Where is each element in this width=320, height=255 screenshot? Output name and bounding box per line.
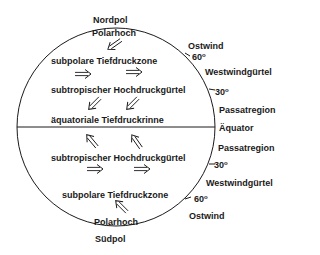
- westerlies-north-label: Westwindgürtel: [205, 67, 272, 77]
- lat-30-north-label: 30o: [215, 87, 229, 97]
- lat-60-north-label: 60o: [192, 52, 206, 62]
- tick-60-north: [185, 53, 190, 56]
- east-wind-north-label: Ostwind: [188, 41, 224, 51]
- north-pole-label: Nordpol: [93, 15, 128, 25]
- trade-south-label: Passatregion: [218, 143, 275, 153]
- subtropical-high-north-label: subtropischer Hochdruckgürtel: [51, 85, 186, 95]
- trade-north-arrow-icon: [86, 95, 104, 113]
- trade-north-arrow-icon: [124, 95, 142, 113]
- westerlies-south-label: Westwindgürtel: [206, 178, 273, 188]
- subpolar-low-north-label: subpolare Tiefdruckzone: [51, 56, 157, 66]
- trade-south-arrow-icon: [83, 132, 100, 150]
- polar-high-north-label: Polarhoch: [92, 28, 136, 38]
- westerly-north-arrow-icon: [126, 68, 142, 77]
- equatorial-trough-label: äquatoriale Tiefdruckrinne: [51, 115, 164, 125]
- polar-north-arrow-icon: [105, 36, 123, 53]
- lat-60-south-label: 60o: [194, 194, 208, 204]
- subtropical-high-south-label: subtropischer Hochdruckgürtel: [51, 153, 186, 163]
- south-pole-label: Südpol: [95, 234, 126, 244]
- east-wind-south-label: Ostwind: [189, 211, 225, 221]
- trade-north-label: Passatregion: [219, 105, 276, 115]
- westerly-south-arrow-icon: [87, 165, 103, 174]
- westerly-north-arrow-icon: [75, 70, 91, 79]
- subpolar-low-south-label: subpolare Tiefdruckzone: [62, 190, 168, 200]
- polar-south-arrow-icon: [113, 198, 131, 216]
- lat-30-south-label: 30o: [214, 160, 228, 170]
- westerly-south-arrow-icon: [134, 165, 150, 174]
- trade-south-arrow-icon: [128, 132, 145, 150]
- equator-label: Äquator: [219, 123, 254, 133]
- polar-high-south-label: Polarhoch: [94, 217, 138, 227]
